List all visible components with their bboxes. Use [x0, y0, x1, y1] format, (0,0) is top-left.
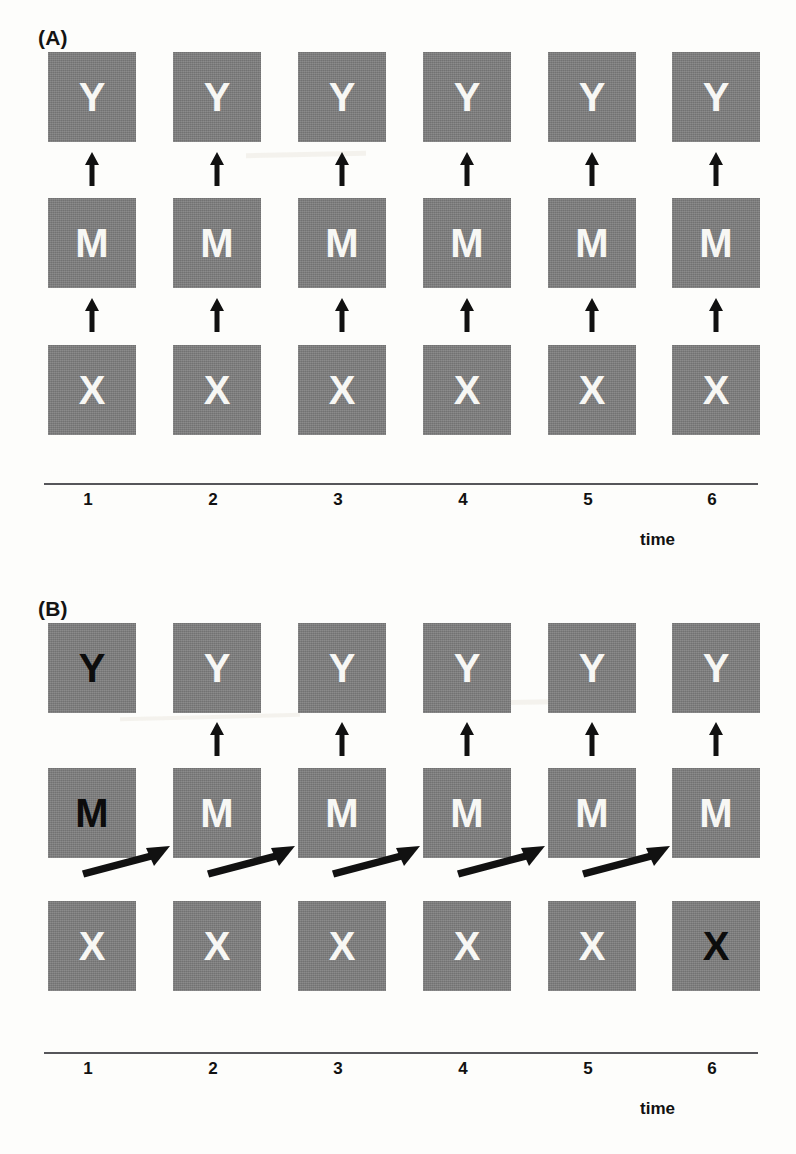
- time-tick-a-1: 1: [68, 490, 108, 510]
- node-label: X: [79, 926, 106, 966]
- time-axis-title-a: time: [640, 530, 675, 550]
- panel-b-label: (B): [38, 597, 68, 621]
- node-label: Y: [454, 648, 481, 688]
- node-label: X: [454, 926, 481, 966]
- node-a-y-5: Y: [548, 52, 636, 142]
- node-a-y-6: Y: [672, 52, 760, 142]
- node-a-m-3: M: [298, 198, 386, 288]
- node-label: M: [575, 223, 608, 263]
- node-a-x-2: X: [173, 345, 261, 435]
- node-b-x-5: X: [548, 901, 636, 991]
- node-label: M: [325, 793, 358, 833]
- node-a-x-6: X: [672, 345, 760, 435]
- node-label: Y: [579, 77, 606, 117]
- node-label: Y: [204, 77, 231, 117]
- time-axis-line-a: [44, 483, 758, 485]
- node-b-m-6: M: [672, 768, 760, 858]
- node-label: M: [325, 223, 358, 263]
- arrow-a-x-to-m-4: [459, 298, 475, 332]
- arrow-a-x-to-m-1: [84, 298, 100, 332]
- arrow-b-diag-4-to-5: [457, 840, 549, 876]
- node-label: X: [204, 370, 231, 410]
- arrow-b-m-to-y-4: [459, 722, 475, 756]
- time-tick-b-1: 1: [68, 1059, 108, 1079]
- time-tick-b-5: 5: [568, 1059, 608, 1079]
- time-tick-b-4: 4: [443, 1059, 483, 1079]
- node-b-x-3: X: [298, 901, 386, 991]
- node-b-x-4: X: [423, 901, 511, 991]
- node-a-y-4: Y: [423, 52, 511, 142]
- node-label: Y: [204, 648, 231, 688]
- figure-root: (A) Y Y Y Y Y Y M M M M M M X X X X X: [0, 0, 796, 1154]
- arrow-b-m-to-y-5: [584, 722, 600, 756]
- time-tick-a-2: 2: [193, 490, 233, 510]
- arrow-b-diag-5-to-6: [582, 840, 674, 876]
- node-label: X: [579, 370, 606, 410]
- node-b-y-2: Y: [173, 623, 261, 713]
- arrow-a-x-to-m-2: [209, 298, 225, 332]
- arrow-a-m-to-y-2: [209, 152, 225, 186]
- node-a-x-5: X: [548, 345, 636, 435]
- time-tick-b-3: 3: [318, 1059, 358, 1079]
- node-label: X: [79, 370, 106, 410]
- arrow-a-x-to-m-3: [334, 298, 350, 332]
- node-a-y-3: Y: [298, 52, 386, 142]
- time-tick-b-2: 2: [193, 1059, 233, 1079]
- arrow-a-x-to-m-6: [708, 298, 724, 332]
- node-b-y-3: Y: [298, 623, 386, 713]
- node-label: Y: [329, 77, 356, 117]
- node-label: M: [200, 793, 233, 833]
- arrow-a-m-to-y-6: [708, 152, 724, 186]
- node-label: Y: [703, 648, 730, 688]
- node-label: X: [329, 926, 356, 966]
- node-a-m-1: M: [48, 198, 136, 288]
- node-a-m-2: M: [173, 198, 261, 288]
- node-b-x-1: X: [48, 901, 136, 991]
- node-a-m-5: M: [548, 198, 636, 288]
- node-label: M: [575, 793, 608, 833]
- arrow-b-m-to-y-6: [708, 722, 724, 756]
- node-a-y-1: Y: [48, 52, 136, 142]
- node-label: X: [329, 370, 356, 410]
- node-label: X: [703, 926, 730, 966]
- node-label: M: [450, 793, 483, 833]
- node-a-y-2: Y: [173, 52, 261, 142]
- time-tick-a-4: 4: [443, 490, 483, 510]
- node-label: X: [579, 926, 606, 966]
- node-label: X: [703, 370, 730, 410]
- node-label: X: [204, 926, 231, 966]
- node-label: Y: [703, 77, 730, 117]
- arrow-b-m-to-y-2: [209, 722, 225, 756]
- node-a-x-1: X: [48, 345, 136, 435]
- panel-a: (A) Y Y Y Y Y Y M M M M M M X X X X X: [0, 0, 796, 580]
- node-b-x-2: X: [173, 901, 261, 991]
- time-axis-line-b: [44, 1052, 758, 1054]
- node-label: M: [699, 793, 732, 833]
- node-label: Y: [329, 648, 356, 688]
- time-tick-a-5: 5: [568, 490, 608, 510]
- panel-b: (B) Y Y Y Y Y Y M M M M M M: [0, 570, 796, 1154]
- node-a-x-4: X: [423, 345, 511, 435]
- time-tick-a-6: 6: [692, 490, 732, 510]
- node-b-y-1: Y: [48, 623, 136, 713]
- node-b-y-6: Y: [672, 623, 760, 713]
- panel-a-label: (A): [38, 26, 68, 50]
- node-label: M: [75, 223, 108, 263]
- node-label: M: [75, 793, 108, 833]
- node-a-m-4: M: [423, 198, 511, 288]
- arrow-b-diag-2-to-3: [207, 840, 299, 876]
- arrow-a-m-to-y-5: [584, 152, 600, 186]
- time-axis-title-b: time: [640, 1099, 675, 1119]
- node-b-x-6: X: [672, 901, 760, 991]
- node-b-y-5: Y: [548, 623, 636, 713]
- arrow-a-m-to-y-4: [459, 152, 475, 186]
- arrow-a-x-to-m-5: [584, 298, 600, 332]
- arrow-a-m-to-y-1: [84, 152, 100, 186]
- node-label: Y: [454, 77, 481, 117]
- time-tick-a-3: 3: [318, 490, 358, 510]
- node-label: Y: [79, 648, 106, 688]
- node-label: X: [454, 370, 481, 410]
- arrow-b-m-to-y-3: [334, 722, 350, 756]
- arrow-b-diag-3-to-4: [332, 840, 424, 876]
- time-tick-b-6: 6: [692, 1059, 732, 1079]
